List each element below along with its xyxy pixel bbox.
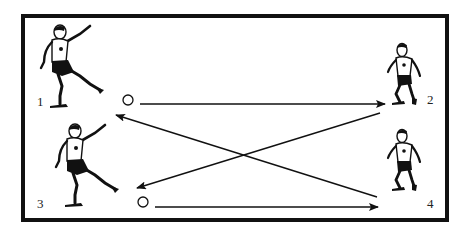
arrow-4-to-1 <box>116 115 377 197</box>
ball-1 <box>123 95 133 105</box>
ball-3 <box>138 197 148 207</box>
arrow-2-to-3 <box>137 113 380 188</box>
player-2-label: 2 <box>427 92 434 108</box>
player-1-label: 1 <box>37 94 44 110</box>
drill-diagram: 1 2 3 4 <box>0 0 469 234</box>
diagram-graphics <box>0 0 469 234</box>
player-3-figure <box>56 124 119 207</box>
player-2-figure <box>388 44 420 106</box>
player-4-figure <box>388 130 420 192</box>
player-3-label: 3 <box>37 196 44 212</box>
player-1-figure <box>41 25 104 108</box>
player-4-label: 4 <box>427 196 434 212</box>
